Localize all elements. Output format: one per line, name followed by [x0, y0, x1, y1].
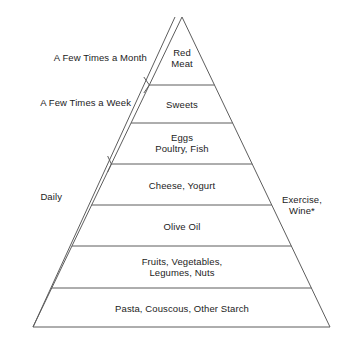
tier-label-3: Cheese, Yogurt	[149, 180, 215, 191]
tier-label-6: Pasta, Couscous, Other Starch	[115, 303, 249, 314]
tier-label-4: Olive Oil	[164, 221, 201, 232]
food-pyramid-diagram: Red MeatSweetsEggs Poultry, FishCheese, …	[0, 0, 353, 347]
band-tick-1-lower	[108, 164, 112, 172]
frequency-band-outer-edge	[33, 17, 175, 327]
frequency-label-2: Daily	[40, 191, 62, 202]
tier-label-0: Red Meat	[171, 47, 193, 69]
side-note-0: Exercise, Wine*	[282, 194, 322, 216]
tier-label-1: Sweets	[166, 99, 198, 110]
frequency-label-0: A Few Times a Month	[54, 52, 147, 63]
tier-label-2: Eggs Poultry, Fish	[155, 132, 208, 154]
frequency-label-1: A Few Times a Week	[40, 97, 131, 108]
tier-label-5: Fruits, Vegetables, Legumes, Nuts	[142, 256, 223, 278]
